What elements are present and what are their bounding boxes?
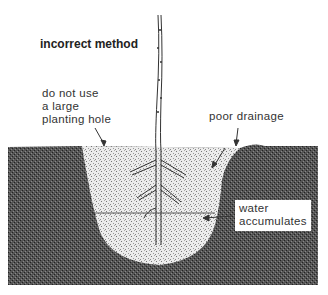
label-large-hole: do not use a large planting hole [42, 87, 111, 126]
label-line: planting hole [42, 113, 111, 126]
label-water-accumulates: water accumulates [235, 200, 311, 231]
diagram-title: incorrect method [40, 37, 138, 51]
label-line: accumulates [239, 215, 307, 228]
label-line: water [239, 202, 307, 215]
label-line: do not use [42, 87, 111, 100]
label-line: a large [42, 100, 111, 113]
label-poor-drainage: poor drainage [209, 110, 284, 123]
planting-diagram: incorrect method do not use a large plan… [0, 0, 328, 295]
